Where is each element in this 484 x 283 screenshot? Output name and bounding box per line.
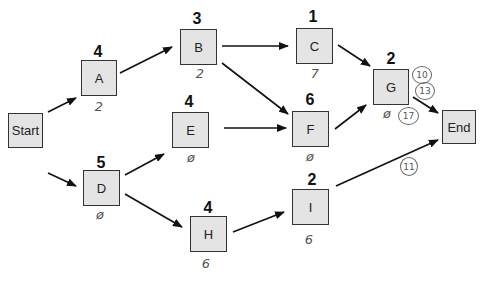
duration-h: 4 (188, 199, 228, 217)
note-h: 6 (191, 256, 221, 271)
duration-b: 3 (177, 10, 217, 28)
node-start: Start (8, 113, 43, 148)
node-label: G (386, 80, 396, 95)
node-label: A (95, 71, 104, 86)
edge-h-i (233, 212, 284, 232)
annotation-i-end-11: 11 (400, 157, 418, 176)
node-i: I (292, 189, 329, 225)
edge-start-a (48, 98, 76, 112)
annotation-g-13: 13 (415, 82, 435, 100)
note-f: ø (295, 149, 325, 164)
node-g: G (373, 69, 409, 105)
node-label: B (194, 40, 203, 55)
node-d: D (83, 170, 120, 206)
duration-e: 4 (169, 93, 209, 111)
edge-d-h (125, 194, 182, 227)
note-c: 7 (300, 66, 330, 81)
edge-d-e (125, 154, 164, 175)
node-e: E (172, 112, 209, 148)
node-label: D (97, 181, 106, 196)
edge-a-b (120, 47, 172, 73)
edge-c-g (338, 45, 370, 66)
duration-a: 4 (78, 43, 118, 61)
node-label: E (186, 123, 195, 138)
duration-c: 1 (293, 8, 333, 26)
node-label: I (309, 200, 313, 215)
node-a: A (81, 60, 117, 96)
duration-g: 2 (371, 50, 411, 68)
network-edges (0, 0, 484, 283)
node-h: H (190, 216, 227, 252)
node-label: End (447, 120, 470, 135)
duration-i: 2 (292, 171, 332, 189)
edge-f-g (335, 105, 366, 129)
node-label: Start (12, 123, 39, 138)
note-d: ø (85, 207, 115, 222)
edge-b-f (222, 63, 288, 114)
duration-f: 6 (290, 91, 330, 109)
node-c: C (296, 28, 333, 64)
node-f: F (292, 111, 329, 147)
node-end: End (442, 110, 476, 144)
node-label: C (310, 39, 319, 54)
edge-start-d (48, 173, 76, 186)
edge-i-end (336, 140, 438, 186)
node-label: H (204, 227, 213, 242)
node-label: F (307, 122, 315, 137)
note-i: 6 (294, 232, 324, 247)
note-b: 2 (185, 66, 215, 81)
note-a: 2 (84, 99, 114, 114)
note-e: ø (176, 150, 206, 165)
annotation-g-17: 17 (398, 107, 419, 125)
node-b: B (180, 29, 217, 65)
